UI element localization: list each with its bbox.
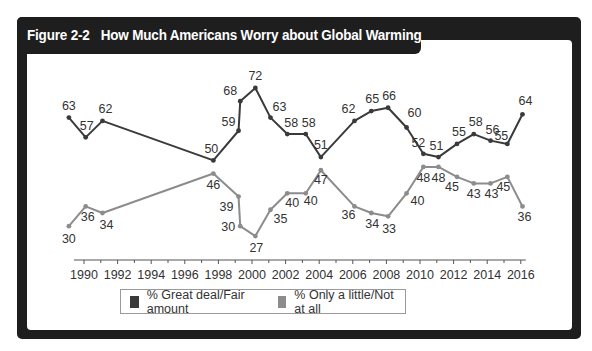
data-point-great-deal — [211, 158, 216, 163]
x-tick-label: 1996 — [171, 268, 199, 282]
legend-label-great-deal: % Great deal/Fair amount — [147, 288, 261, 316]
data-label: 48 — [416, 171, 430, 185]
x-tick-label: 2016 — [507, 268, 535, 282]
data-point-great-deal — [100, 119, 105, 124]
data-label: 60 — [408, 106, 422, 120]
data-point-great-deal — [285, 132, 290, 137]
data-point-great-deal — [404, 125, 409, 130]
data-label: 51 — [430, 139, 444, 153]
legend-item-great-deal: % Great deal/Fair amount — [130, 288, 261, 316]
data-point-great-deal — [236, 128, 241, 133]
data-point-only-a-little — [253, 234, 258, 239]
data-point-only-a-little — [386, 214, 391, 219]
data-label: 57 — [80, 119, 94, 133]
data-label: 58 — [302, 116, 316, 130]
data-label: 43 — [467, 187, 481, 201]
data-label: 46 — [206, 178, 220, 192]
legend-swatch-great-deal — [130, 296, 139, 308]
data-label: 51 — [314, 138, 328, 152]
data-point-only-a-little — [318, 168, 323, 173]
data-label: 50 — [204, 142, 218, 156]
data-point-only-a-little — [471, 181, 476, 186]
data-point-only-a-little — [268, 207, 273, 212]
data-label: 63 — [273, 100, 287, 114]
data-point-great-deal — [268, 115, 273, 120]
data-point-great-deal — [421, 151, 426, 156]
data-label: 52 — [411, 136, 425, 150]
data-point-only-a-little — [369, 211, 374, 216]
data-point-great-deal — [253, 86, 258, 91]
data-point-only-a-little — [455, 174, 460, 179]
x-tick-label: 2012 — [440, 268, 468, 282]
data-label: 36 — [342, 208, 356, 222]
data-point-great-deal — [352, 119, 357, 124]
data-label: 62 — [99, 102, 113, 116]
data-label: 63 — [62, 99, 76, 113]
data-label: 64 — [519, 94, 533, 108]
data-label: 36 — [518, 210, 532, 224]
x-tick-label: 2000 — [238, 268, 266, 282]
data-point-great-deal — [303, 132, 308, 137]
data-point-great-deal — [369, 109, 374, 114]
x-tick-label: 2010 — [406, 268, 434, 282]
x-tick-label: 2006 — [339, 268, 367, 282]
data-point-great-deal — [436, 155, 441, 160]
data-point-only-a-little — [66, 224, 71, 229]
data-point-great-deal — [488, 138, 493, 143]
data-point-only-a-little — [211, 171, 216, 176]
data-point-only-a-little — [520, 204, 525, 209]
data-label: 36 — [81, 210, 95, 224]
data-point-only-a-little — [285, 191, 290, 196]
data-label: 40 — [285, 196, 299, 210]
data-point-great-deal — [386, 105, 391, 110]
data-label: 66 — [382, 89, 396, 103]
data-point-only-a-little — [421, 165, 426, 170]
legend-item-only-a-little: % Only a little/Not at all — [278, 288, 397, 316]
data-label: 48 — [432, 171, 446, 185]
data-label: 33 — [382, 222, 396, 236]
data-point-great-deal — [318, 155, 323, 160]
data-label: 68 — [223, 84, 237, 98]
data-label: 35 — [274, 212, 288, 226]
data-label: 40 — [411, 194, 425, 208]
data-point-great-deal — [66, 115, 71, 120]
data-point-great-deal — [238, 99, 243, 104]
data-point-only-a-little — [505, 174, 510, 179]
data-label: 59 — [222, 115, 236, 129]
data-label: 27 — [249, 241, 263, 255]
x-tick-label: 1998 — [204, 268, 232, 282]
data-label: 34 — [365, 217, 379, 231]
data-point-only-a-little — [436, 165, 441, 170]
data-label: 45 — [445, 180, 459, 194]
data-label: 34 — [100, 218, 114, 232]
x-tick-label: 2002 — [272, 268, 300, 282]
data-label: 65 — [365, 92, 379, 106]
data-point-great-deal — [520, 112, 525, 117]
data-point-only-a-little — [404, 191, 409, 196]
data-point-only-a-little — [488, 181, 493, 186]
data-point-great-deal — [83, 135, 88, 140]
data-point-great-deal — [471, 132, 476, 137]
data-label: 45 — [496, 180, 510, 194]
data-label: 40 — [304, 194, 318, 208]
data-point-only-a-little — [238, 224, 243, 229]
legend-swatch-only-a-little — [278, 296, 287, 308]
data-label: 30 — [62, 232, 76, 246]
x-tick-label: 1992 — [104, 268, 132, 282]
data-label: 47 — [314, 173, 328, 187]
data-label: 72 — [248, 69, 262, 83]
data-point-only-a-little — [236, 194, 241, 199]
data-point-only-a-little — [83, 204, 88, 209]
data-label: 58 — [469, 115, 483, 129]
data-label: 55 — [452, 125, 466, 139]
data-label: 62 — [342, 102, 356, 116]
x-tick-label: 2004 — [305, 268, 333, 282]
legend: % Great deal/Fair amount % Only a little… — [120, 289, 406, 314]
data-label: 55 — [494, 129, 508, 143]
x-tick-label: 2008 — [372, 268, 400, 282]
x-tick-label: 1990 — [70, 268, 98, 282]
data-label: 58 — [284, 116, 298, 130]
legend-label-only-a-little: % Only a little/Not at all — [294, 288, 397, 316]
data-point-only-a-little — [100, 211, 105, 216]
data-point-great-deal — [455, 142, 460, 147]
